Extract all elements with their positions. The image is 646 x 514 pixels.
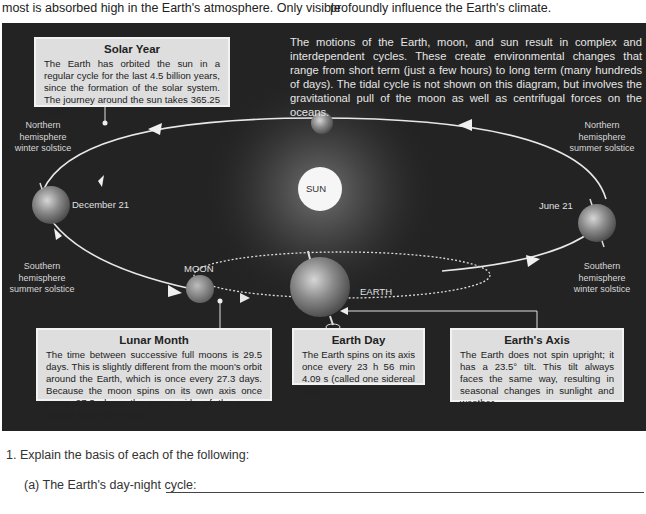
top-text-left: most is absorbed high in the Earth's atm… <box>2 0 341 16</box>
label-line: hemisphere <box>2 273 82 285</box>
date-december: December 21 <box>72 199 129 211</box>
earths-axis-box: Earth's Axis The Earth does not spin upr… <box>450 328 624 402</box>
label-line: winter solstice <box>562 284 642 296</box>
label-line: summer solstice <box>2 284 82 296</box>
question-1a: (a) The Earth's day-night cycle: <box>24 478 196 492</box>
label-left-bottom: Southern hemisphere summer solstice <box>2 261 82 296</box>
orbit-arrow-icon <box>98 175 104 187</box>
earth-december <box>32 186 70 224</box>
orbit-arrow-icon <box>54 228 62 240</box>
earths-axis-body: The Earth does not spin upright; it has … <box>460 349 614 409</box>
solar-year-body: The Earth has orbited the sun in a regul… <box>44 58 220 118</box>
axis-tick <box>590 199 592 205</box>
label-line: summer solstice <box>562 143 642 155</box>
connector-dot <box>218 299 223 304</box>
label-right-bottom: Southern hemisphere winter solstice <box>562 261 642 296</box>
earth-center <box>290 257 350 317</box>
axis-tick <box>602 241 604 247</box>
question-1: 1. Explain the basis of each of the foll… <box>6 448 249 462</box>
orbit-arrow-icon <box>148 123 162 135</box>
moon-label: MOON <box>184 263 214 275</box>
lunar-month-box: Lunar Month The time between successive … <box>36 328 272 401</box>
label-line: Northern <box>8 120 78 132</box>
earth-cycles-diagram: The motions of the Earth, moon, and sun … <box>2 23 646 431</box>
earth-day-body: The Earth spins on its axis once every 2… <box>302 349 415 397</box>
connector-earths-axis <box>348 311 537 328</box>
label-right-top: Northern hemisphere summer solstice <box>562 120 642 155</box>
moon <box>186 275 214 303</box>
label-line: winter solstice <box>8 143 78 155</box>
orbit-arrow-icon <box>458 119 472 131</box>
label-line: hemisphere <box>8 132 78 144</box>
label-line: Northern <box>562 120 642 132</box>
solar-year-title: Solar Year <box>44 42 220 57</box>
label-line: hemisphere <box>562 132 642 144</box>
label-line: hemisphere <box>562 273 642 285</box>
earth-label: EARTH <box>360 286 392 298</box>
sun-label: SUN <box>306 183 326 195</box>
label-line: Southern <box>562 261 642 273</box>
label-left-top: Northern hemisphere winter solstice <box>8 120 78 155</box>
axis-tick <box>40 183 42 189</box>
earth-day-title: Earth Day <box>302 333 415 348</box>
earth-june <box>578 204 616 242</box>
label-line: Southern <box>2 261 82 273</box>
top-text-right: profoundly influence the Earth's climate… <box>330 0 551 16</box>
lunar-month-body: The time between successive full moons i… <box>46 349 262 421</box>
intro-text: The motions of the Earth, moon, and sun … <box>290 35 642 119</box>
earth-day-box: Earth Day The Earth spins on its axis on… <box>292 328 425 385</box>
lunar-month-title: Lunar Month <box>46 333 262 348</box>
moon-orbit-arrow-icon <box>240 293 250 303</box>
earths-axis-title: Earth's Axis <box>460 333 614 348</box>
date-june: June 21 <box>539 200 573 212</box>
answer-line-1a[interactable] <box>166 492 644 493</box>
connector-dot <box>103 121 108 126</box>
solar-year-box: Solar Year The Earth has orbited the sun… <box>34 37 230 107</box>
